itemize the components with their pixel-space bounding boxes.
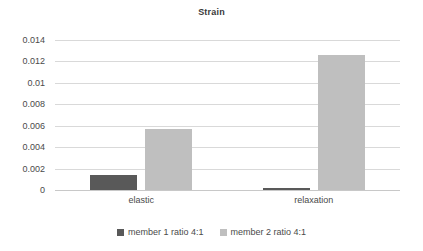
- y-axis-tick-label: 0.002: [22, 164, 45, 173]
- y-axis-tick-label: 0.008: [22, 100, 45, 109]
- x-axis-labels: elasticrelaxation: [55, 196, 400, 212]
- chart-title: Strain: [0, 7, 423, 17]
- y-axis-labels: 00.0020.0040.0060.0080.010.0120.014: [0, 40, 50, 190]
- y-axis-tick-label: 0: [40, 186, 45, 195]
- legend-swatch-icon: [220, 229, 227, 236]
- axis-baseline: [55, 190, 400, 191]
- bar: [263, 188, 310, 190]
- legend-label: member 1 ratio 4:1: [128, 228, 204, 237]
- x-axis-tick-label: relaxation: [294, 196, 333, 205]
- bar: [90, 175, 137, 190]
- y-axis-tick-label: 0.004: [22, 143, 45, 152]
- bars-layer: [55, 40, 400, 190]
- legend-item[interactable]: member 2 ratio 4:1: [220, 228, 307, 237]
- y-axis-tick-label: 0.006: [22, 121, 45, 130]
- legend-label: member 2 ratio 4:1: [231, 228, 307, 237]
- y-axis-tick-label: 0.01: [27, 78, 45, 87]
- bar: [145, 129, 192, 190]
- legend-item[interactable]: member 1 ratio 4:1: [117, 228, 204, 237]
- y-axis-tick-label: 0.012: [22, 57, 45, 66]
- bar: [318, 55, 365, 190]
- legend-swatch-icon: [117, 229, 124, 236]
- x-axis-tick-label: elastic: [128, 196, 154, 205]
- plot-area: [55, 40, 400, 190]
- chart-container: Strain 00.0020.0040.0060.0080.010.0120.0…: [0, 0, 423, 251]
- y-axis-tick-label: 0.014: [22, 36, 45, 45]
- chart-legend: member 1 ratio 4:1member 2 ratio 4:1: [0, 228, 423, 237]
